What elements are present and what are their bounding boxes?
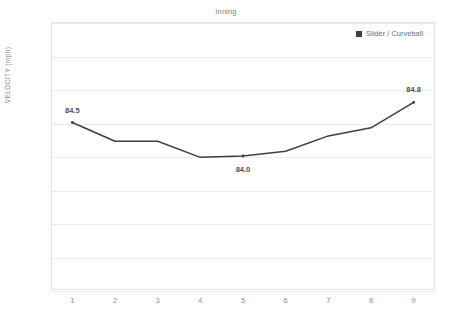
series-marker	[71, 121, 74, 124]
series-line-slider-curveball	[72, 102, 413, 157]
series-marker	[242, 155, 245, 158]
data-label: 84.5	[65, 105, 80, 114]
series-layer	[0, 0, 452, 316]
velocity-by-inning-chart: Inning VELOCITY (mph) 86.085.585.084.584…	[0, 0, 452, 316]
data-label: 84.0	[236, 165, 251, 174]
data-label: 84.8	[406, 85, 421, 94]
series-marker	[412, 101, 415, 104]
